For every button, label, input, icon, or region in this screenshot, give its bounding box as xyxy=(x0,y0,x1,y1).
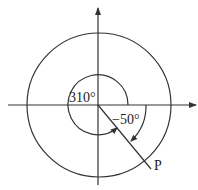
label-neg50: −50° xyxy=(112,112,140,127)
angle-diagram: 310° −50° P xyxy=(0,0,198,190)
label-point-p: P xyxy=(154,158,162,173)
label-310: 310° xyxy=(69,90,96,105)
